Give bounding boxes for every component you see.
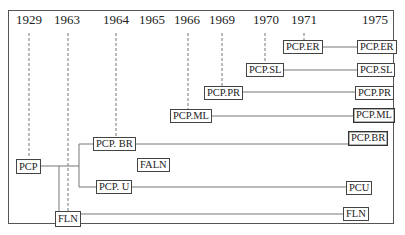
year-label-1969: 1969 [209,12,235,28]
node-pcp-br-origin: PCP. BR [93,137,136,151]
node-pcp-u-origin: PCP. U [96,180,132,194]
node-pcu-1975: PCU [346,181,372,195]
year-label-1964: 1964 [103,12,129,28]
year-label-1966: 1966 [174,12,200,28]
node-pcp-ml-1975: PCP.ML [353,108,395,123]
year-label-1971: 1971 [291,12,317,28]
year-label-1929: 1929 [16,12,42,28]
year-label-1963: 1963 [54,12,80,28]
node-pcp-br-1975: PCP.BR [348,131,388,146]
node-pcp-ml-origin: PCP.ML [170,109,212,123]
node-fln-origin: FLN [55,211,81,227]
year-label-1975: 1975 [362,12,388,28]
node-pcp-pr-origin: PCP.PR [204,86,243,100]
node-faln: FALN [137,158,170,172]
year-label-1965: 1965 [139,12,165,28]
node-pcp-sl-origin: PCP.SL [246,63,284,77]
node-pcp-sl-1975: PCP.SL [357,63,395,77]
node-pcp-er-origin: PCP.ER [283,40,323,54]
year-label-1970: 1970 [253,12,279,28]
node-pcp: PCP [16,159,41,174]
node-fln-1975: FLN [343,207,369,221]
node-pcp-er-1975: PCP.ER [357,40,397,54]
node-pcp-pr-1975: PCP.PR [355,86,394,100]
